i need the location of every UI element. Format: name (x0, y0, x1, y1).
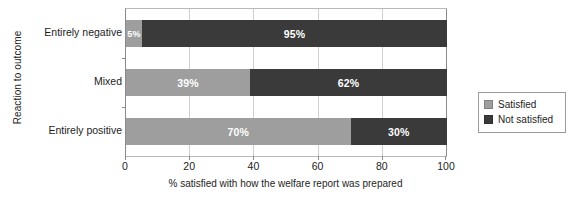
x-axis-title: % satisfied with how the welfare report … (125, 178, 446, 189)
bar-row: 70%30% (126, 118, 447, 145)
legend-swatch-icon (484, 115, 493, 124)
bar-segment-satisfied: 39% (126, 69, 250, 96)
category-label-mixed: Mixed (12, 75, 122, 87)
y-axis-tick (122, 107, 126, 108)
stacked-bar-chart: Reaction to outcome Entirely negativeMix… (0, 0, 586, 198)
bar-segment-satisfied: 70% (126, 118, 351, 145)
bar-segment-satisfied: 5% (126, 20, 142, 47)
x-axis-tick-label: 100 (437, 160, 455, 172)
legend: SatisfiedNot satisfied (478, 92, 566, 133)
bar-segment-not-satisfied: 95% (142, 20, 447, 47)
legend-item[interactable]: Not satisfied (484, 112, 560, 127)
bar-value-label: 95% (284, 28, 306, 40)
legend-label: Satisfied (498, 99, 536, 110)
category-label-entirely-negative: Entirely negative (12, 26, 122, 38)
x-axis-tick-label: 40 (248, 160, 260, 172)
bar-row: 39%62% (126, 69, 447, 96)
bar-value-label: 5% (127, 29, 140, 39)
bar-value-label: 70% (228, 126, 250, 138)
x-axis-tick-label: 20 (183, 160, 195, 172)
legend-swatch-icon (484, 100, 493, 109)
bar-value-label: 39% (177, 77, 199, 89)
y-axis-category-labels: Entirely negativeMixedEntirely positive (14, 0, 122, 160)
plot-area: 5%95%39%62%70%30% (125, 8, 447, 157)
bar-row: 5%95% (126, 20, 447, 47)
x-axis-tick-label: 60 (312, 160, 324, 172)
x-axis-tick-label: 80 (376, 160, 388, 172)
legend-item[interactable]: Satisfied (484, 97, 560, 112)
x-axis-tick-label: 0 (122, 160, 128, 172)
category-label-entirely-positive: Entirely positive (12, 124, 122, 136)
bar-value-label: 30% (388, 126, 410, 138)
y-axis-tick (122, 58, 126, 59)
bar-value-label: 62% (338, 77, 360, 89)
legend-label: Not satisfied (498, 114, 553, 125)
x-axis-tick-labels: 020406080100 (125, 160, 446, 174)
bar-segment-not-satisfied: 30% (351, 118, 447, 145)
bar-segment-not-satisfied: 62% (250, 69, 447, 96)
